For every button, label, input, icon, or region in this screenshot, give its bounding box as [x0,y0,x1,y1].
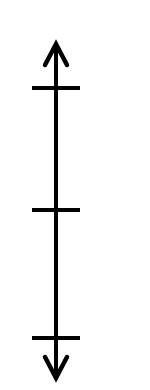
vertical-number-line [0,0,150,390]
diagram-canvas [0,0,150,390]
